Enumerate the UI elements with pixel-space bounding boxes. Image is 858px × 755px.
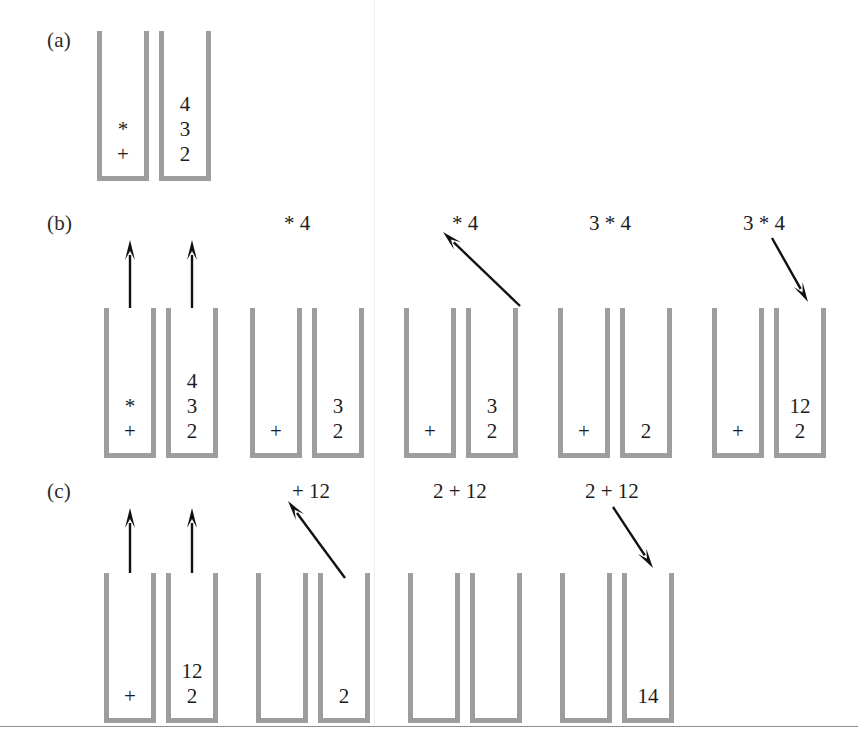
stack-items: 234 (171, 369, 213, 444)
expression-label: 2 + 12 (433, 481, 487, 502)
stack-items: + (717, 419, 759, 444)
stack-item: 12 (182, 659, 203, 684)
panel-label-b: (b) (47, 213, 72, 234)
stack-item: 3 (187, 394, 198, 419)
panel-label-c: (c) (47, 481, 71, 502)
stack-item: 2 (795, 419, 806, 444)
stack-item: + (117, 142, 129, 167)
stack-item: + (578, 419, 590, 444)
stack-item: 2 (187, 684, 198, 709)
stack-item: + (732, 419, 744, 444)
operator-stack: + (404, 308, 456, 458)
stack-item: 2 (187, 419, 198, 444)
panel-label-a: (a) (47, 30, 71, 51)
stack-items: 2 (323, 684, 365, 709)
stack-item: + (424, 419, 436, 444)
operand-stack: 234 (166, 308, 218, 458)
stack-item: 12 (790, 394, 811, 419)
operator-stack: + (558, 308, 610, 458)
push-arrow-down-right-head (794, 282, 808, 302)
operand-stack: 212 (166, 573, 218, 723)
stack-machine-figure: (a)+*234(b)+*234* 4+23* 4+233 * 4+23 * 4… (0, 0, 858, 755)
operand-stack: 2 (318, 573, 370, 723)
stack-items: + (255, 419, 297, 444)
pop-arrow-up-left-head (288, 501, 304, 520)
expression-label: 3 * 4 (743, 213, 785, 234)
pop-arrow-up-operand-head (187, 508, 197, 528)
expression-label: + 12 (292, 481, 330, 502)
stack-items: 2 (625, 419, 667, 444)
stack-item: 2 (180, 142, 191, 167)
operator-stack: + (712, 308, 764, 458)
stack-items: + (563, 419, 605, 444)
pop-arrow-up-left-shaft (454, 242, 520, 306)
stack-items: +* (102, 117, 144, 167)
stack-items: 23 (317, 394, 359, 444)
stack-item: + (124, 419, 136, 444)
push-arrow-down-right-shaft (772, 238, 801, 289)
operand-stack: 234 (159, 31, 211, 181)
stack-items: 23 (471, 394, 513, 444)
operator-stack: + (250, 308, 302, 458)
stack-item: * (118, 117, 129, 142)
stack-item: 4 (187, 369, 198, 394)
stack-item: 14 (638, 684, 659, 709)
operator-stack: +* (104, 308, 156, 458)
bottom-rule (0, 726, 858, 727)
stack-items: + (109, 684, 151, 709)
pop-arrow-up-operator-head (125, 240, 135, 260)
expression-label: * 4 (452, 213, 478, 234)
stack-item: + (124, 684, 136, 709)
scan-seam (374, 0, 375, 726)
stack-items: 234 (164, 92, 206, 167)
stack-item: 3 (180, 117, 191, 142)
stack-items: 212 (779, 394, 821, 444)
operand-stack: 212 (774, 308, 826, 458)
stack-item: 4 (180, 92, 191, 117)
stack-item: 2 (339, 684, 350, 709)
pop-arrow-up-operator-head (125, 508, 135, 528)
stack-items: 212 (171, 659, 213, 709)
stack-item: * (125, 394, 136, 419)
push-arrow-down-right-head (638, 549, 653, 568)
stack-items: +* (109, 394, 151, 444)
stack-item: 2 (641, 419, 652, 444)
expression-label: 3 * 4 (589, 213, 631, 234)
expression-label: * 4 (284, 213, 310, 234)
stack-item: 3 (487, 394, 498, 419)
operator-stack: + (104, 573, 156, 723)
pop-arrow-up-operand-head (187, 240, 197, 260)
pop-arrow-up-left-shaft (297, 513, 345, 578)
operator-stack (408, 573, 460, 723)
operator-stack: +* (97, 31, 149, 181)
operand-stack: 23 (466, 308, 518, 458)
stack-item: 3 (333, 394, 344, 419)
stack-items: 14 (627, 684, 669, 709)
operand-stack: 23 (312, 308, 364, 458)
stack-item: 2 (333, 419, 344, 444)
operator-stack (560, 573, 612, 723)
expression-label: 2 + 12 (585, 481, 639, 502)
stack-item: 2 (487, 419, 498, 444)
operator-stack (256, 573, 308, 723)
operand-stack: 14 (622, 573, 674, 723)
stack-items: + (409, 419, 451, 444)
stack-item: + (270, 419, 282, 444)
push-arrow-down-right-shaft (613, 507, 645, 555)
operand-stack (470, 573, 522, 723)
operand-stack: 2 (620, 308, 672, 458)
